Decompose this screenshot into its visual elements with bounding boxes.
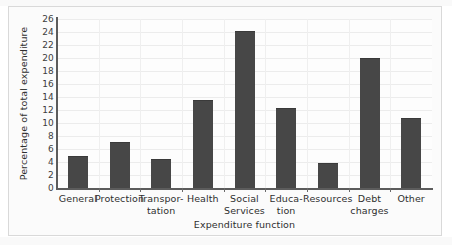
chart-screenshot: Percentage of total expenditure 02468101… [0,0,452,245]
x-tick-6 [307,188,308,192]
x-tick-4 [224,188,225,192]
category-label-line1: Social [230,193,259,204]
y-tick-label-10: 10 [8,119,54,128]
y-tick-label-20: 20 [8,54,54,63]
gridline-x-5 [265,19,266,188]
y-axis-tick-labels: 02468101214161820222426 [4,0,54,245]
y-tick-label-2: 2 [8,171,54,180]
bar [110,142,130,188]
bar [68,156,88,189]
y-tick-label-26: 26 [8,15,54,24]
category-label: Other [384,193,438,205]
scan-tint-bottom [0,237,452,245]
category-label-line2: tation [134,205,188,217]
gridline-x-7 [349,19,350,188]
category-label-line1: Other [397,193,424,204]
bar [276,108,296,188]
gridline-y-26 [57,19,432,20]
category-label-line1: Health [187,193,219,204]
category-label-line2: charges [343,205,397,217]
category-label-line1: General [59,193,97,204]
category-label-line2: tion [259,205,313,217]
x-tick-8 [390,188,391,192]
gridline-x-8 [390,19,391,188]
bar [360,58,380,188]
y-tick-label-24: 24 [8,28,54,37]
bar [151,159,171,188]
gridline-x-6 [307,19,308,188]
y-tick-label-8: 8 [8,132,54,141]
y-tick-label-4: 4 [8,158,54,167]
x-tick-3 [182,188,183,192]
x-tick-2 [140,188,141,192]
x-tick-5 [265,188,266,192]
bar [235,31,255,188]
bar [401,118,421,188]
category-label-line1: Educa- [270,193,303,204]
bar [193,100,213,188]
gridline-x-4 [224,19,225,188]
y-axis-line [56,17,58,190]
y-tick-label-12: 12 [8,106,54,115]
x-axis-line [56,188,433,190]
y-tick-label-0: 0 [8,184,54,193]
category-label-line1: Debt [358,193,381,204]
gridline-x-2 [140,19,141,188]
gridline-x-1 [99,19,100,188]
y-tick-label-18: 18 [8,67,54,76]
gridline-x-3 [182,19,183,188]
x-tick-1 [99,188,100,192]
y-tick-label-6: 6 [8,145,54,154]
bar [318,163,338,188]
x-axis-title: Expenditure function [57,219,432,230]
x-tick-7 [349,188,350,192]
y-tick-label-22: 22 [8,41,54,50]
y-tick-label-14: 14 [8,93,54,102]
y-tick-label-16: 16 [8,80,54,89]
plot-area [57,19,432,188]
